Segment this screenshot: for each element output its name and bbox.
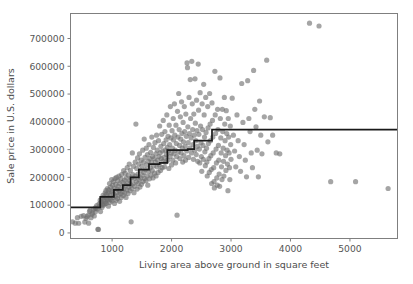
y-tick-label: 700000	[29, 33, 64, 44]
data-point	[226, 135, 231, 140]
x-axis-title: Living area above ground in square feet	[139, 259, 329, 270]
data-point	[203, 95, 208, 100]
data-point	[162, 129, 167, 134]
data-point	[193, 121, 198, 126]
x-tick-label: 3000	[219, 243, 243, 254]
data-point	[196, 108, 201, 113]
data-point	[209, 100, 214, 105]
data-point	[243, 158, 248, 163]
data-point	[225, 188, 230, 193]
data-point	[173, 123, 178, 128]
data-point	[192, 76, 197, 81]
data-point	[161, 118, 166, 123]
data-point	[188, 77, 193, 82]
data-point	[185, 124, 190, 129]
data-point	[172, 101, 177, 106]
data-point	[227, 150, 232, 155]
data-point	[189, 59, 194, 64]
y-tick-label: 200000	[29, 172, 64, 183]
data-point	[186, 95, 191, 100]
data-point	[264, 58, 269, 63]
data-point	[182, 129, 187, 134]
data-point	[212, 69, 217, 74]
data-point	[194, 98, 199, 103]
data-point	[239, 81, 244, 86]
data-point	[265, 139, 270, 144]
data-point	[133, 121, 138, 126]
data-point	[216, 143, 221, 148]
data-point	[219, 164, 224, 169]
data-point	[255, 148, 260, 153]
data-point	[307, 21, 312, 26]
data-point	[228, 157, 233, 162]
data-point	[171, 116, 176, 121]
data-point	[194, 152, 199, 157]
data-point	[86, 221, 91, 226]
data-point	[146, 142, 151, 147]
data-point	[184, 60, 189, 65]
y-tick-label: 0	[59, 227, 65, 238]
data-point	[205, 104, 210, 109]
y-tick-label: 500000	[29, 88, 64, 99]
x-tick-label: 2000	[160, 243, 184, 254]
data-point	[221, 173, 226, 178]
data-point	[217, 171, 222, 176]
data-point	[231, 133, 236, 138]
data-point	[250, 165, 255, 170]
y-tick-label: 300000	[29, 144, 64, 155]
data-point	[268, 115, 273, 120]
data-point	[181, 139, 186, 144]
data-point	[210, 118, 215, 123]
data-point	[259, 151, 264, 156]
data-point	[277, 151, 282, 156]
data-point	[175, 109, 180, 114]
data-point	[203, 130, 208, 135]
data-point	[227, 165, 232, 170]
data-point	[149, 135, 154, 140]
data-point	[156, 138, 161, 143]
data-point	[96, 227, 101, 232]
data-point	[242, 142, 247, 147]
data-point	[213, 112, 218, 117]
data-point	[218, 116, 223, 121]
data-point	[215, 107, 220, 112]
data-point	[228, 123, 233, 128]
data-point	[204, 146, 209, 151]
data-point	[246, 116, 251, 121]
data-point	[76, 221, 81, 226]
data-point	[129, 219, 134, 224]
x-tick-label: 4000	[279, 243, 303, 254]
data-point	[196, 132, 201, 137]
data-point	[245, 78, 250, 83]
data-point	[198, 90, 203, 95]
data-point	[222, 121, 227, 126]
data-point	[256, 174, 261, 179]
data-point	[181, 120, 186, 125]
data-point	[173, 160, 178, 165]
y-axis-title: Sale price in U.S. dollars	[5, 68, 16, 184]
y-tick-label: 600000	[29, 61, 64, 72]
data-point	[316, 23, 321, 28]
data-point	[222, 95, 227, 100]
data-point	[199, 169, 204, 174]
data-point	[228, 142, 233, 147]
scatter-plot-svg: 10002000300040005000 0100000200000300000…	[0, 0, 413, 284]
data-point	[251, 68, 256, 73]
data-point	[386, 186, 391, 191]
data-point	[178, 114, 183, 119]
data-point	[157, 123, 162, 128]
x-tick-label: 5000	[338, 243, 362, 254]
data-point	[174, 213, 179, 218]
data-point	[234, 112, 239, 117]
data-point	[188, 116, 193, 121]
data-point	[190, 101, 195, 106]
data-point	[142, 136, 147, 141]
data-point	[200, 101, 205, 106]
data-point	[226, 116, 231, 121]
data-point	[211, 165, 216, 170]
data-point	[186, 155, 191, 160]
data-point	[270, 133, 275, 138]
chart-figure: 10002000300040005000 0100000200000300000…	[0, 0, 413, 284]
data-point	[202, 112, 207, 117]
data-point	[353, 179, 358, 184]
